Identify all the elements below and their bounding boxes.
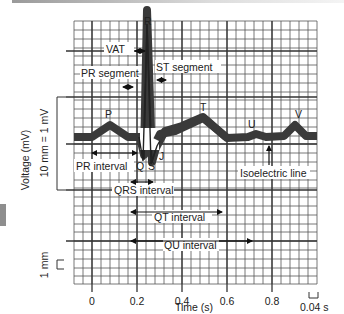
pr-segment-label: PR segment: [81, 67, 139, 79]
wave-label-u: U: [248, 118, 256, 130]
qt-interval-label: QT interval: [154, 211, 205, 223]
pr-interval-label: PR interval: [76, 160, 127, 172]
voltage-scale-bracket: [57, 97, 66, 269]
x-axis-label: Time (s): [175, 301, 213, 313]
y-axis-label: Voltage (mV): [19, 130, 31, 191]
wave-label-r: R: [144, 15, 152, 27]
wave-label-q: Q: [136, 160, 144, 172]
ecg-diagram: R P T U V Q S J VAT PR segment ST segmen…: [0, 0, 344, 314]
qrs-interval-label: QRS interval: [114, 184, 174, 196]
wave-label-v: V: [295, 108, 302, 120]
ecg-trace: [74, 10, 317, 164]
st-segment-label: ST segment: [156, 61, 212, 73]
x-tick: 0.2: [130, 295, 145, 307]
isoelectric-line-label: Isoelectric line: [240, 167, 307, 179]
wave-label-s: S: [148, 160, 155, 172]
x-tick: 0.8: [265, 295, 280, 307]
wave-label-j: J: [159, 150, 164, 162]
wave-label-t: T: [200, 101, 207, 113]
time-scale-label: 0.04 s: [300, 301, 329, 313]
x-tick: 0.6: [220, 295, 235, 307]
vat-label: VAT: [106, 43, 125, 55]
time-scale-bracket: [309, 292, 318, 298]
mm-scale-bracket: [57, 260, 64, 269]
y-axis-scale-label: 10 mm = 1 mV: [38, 109, 50, 178]
wave-label-p: P: [105, 108, 112, 120]
interval-arrows: [92, 51, 269, 241]
mm-scale-label: 1 mm: [38, 252, 50, 279]
x-tick: 0: [89, 295, 95, 307]
